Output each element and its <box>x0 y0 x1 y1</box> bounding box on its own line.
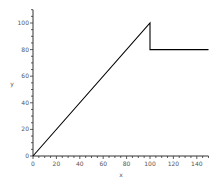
x-tick-label: 0 <box>31 160 35 167</box>
x-axis-ticks: 020406080100120140 <box>31 156 208 167</box>
x-tick-label: 40 <box>76 160 84 167</box>
y-axis-label: y <box>10 80 14 88</box>
y-tick-label: 20 <box>21 125 29 132</box>
x-tick-label: 60 <box>99 160 107 167</box>
x-tick-label: 120 <box>168 160 180 167</box>
y-tick-label: 0 <box>25 152 29 159</box>
plot-area <box>33 23 209 156</box>
x-tick-label: 20 <box>53 160 61 167</box>
y-tick-label: 40 <box>21 99 29 106</box>
axes <box>33 10 209 156</box>
line-chart: 020406080100 020406080100120140 x y <box>0 0 224 184</box>
x-tick-label: 140 <box>191 160 203 167</box>
series-line <box>33 23 209 156</box>
y-tick-label: 60 <box>21 72 29 79</box>
y-tick-label: 100 <box>18 19 30 26</box>
x-tick-label: 100 <box>144 160 156 167</box>
x-axis-label: x <box>119 171 123 178</box>
y-tick-label: 80 <box>21 46 29 53</box>
y-axis-ticks: 020406080100 <box>18 10 33 159</box>
x-tick-label: 80 <box>123 160 131 167</box>
